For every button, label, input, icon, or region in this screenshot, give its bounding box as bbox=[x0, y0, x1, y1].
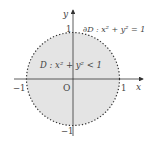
x-axis-label: x bbox=[136, 82, 141, 92]
unit-disk-diagram: x y O −1 1 1 −1 D : x² + y² < 1 ∂D : x² … bbox=[0, 0, 159, 144]
origin-label: O bbox=[63, 83, 70, 93]
y-axis-label: y bbox=[62, 9, 69, 19]
tick-y-neg: −1 bbox=[61, 126, 74, 136]
tick-x-neg: −1 bbox=[13, 83, 26, 93]
region-label: D : x² + y² < 1 bbox=[39, 60, 102, 70]
tick-x-pos: 1 bbox=[121, 83, 126, 93]
boundary-label: ∂D : x² + y² = 1 bbox=[83, 25, 145, 34]
tick-y-pos: 1 bbox=[66, 24, 71, 34]
